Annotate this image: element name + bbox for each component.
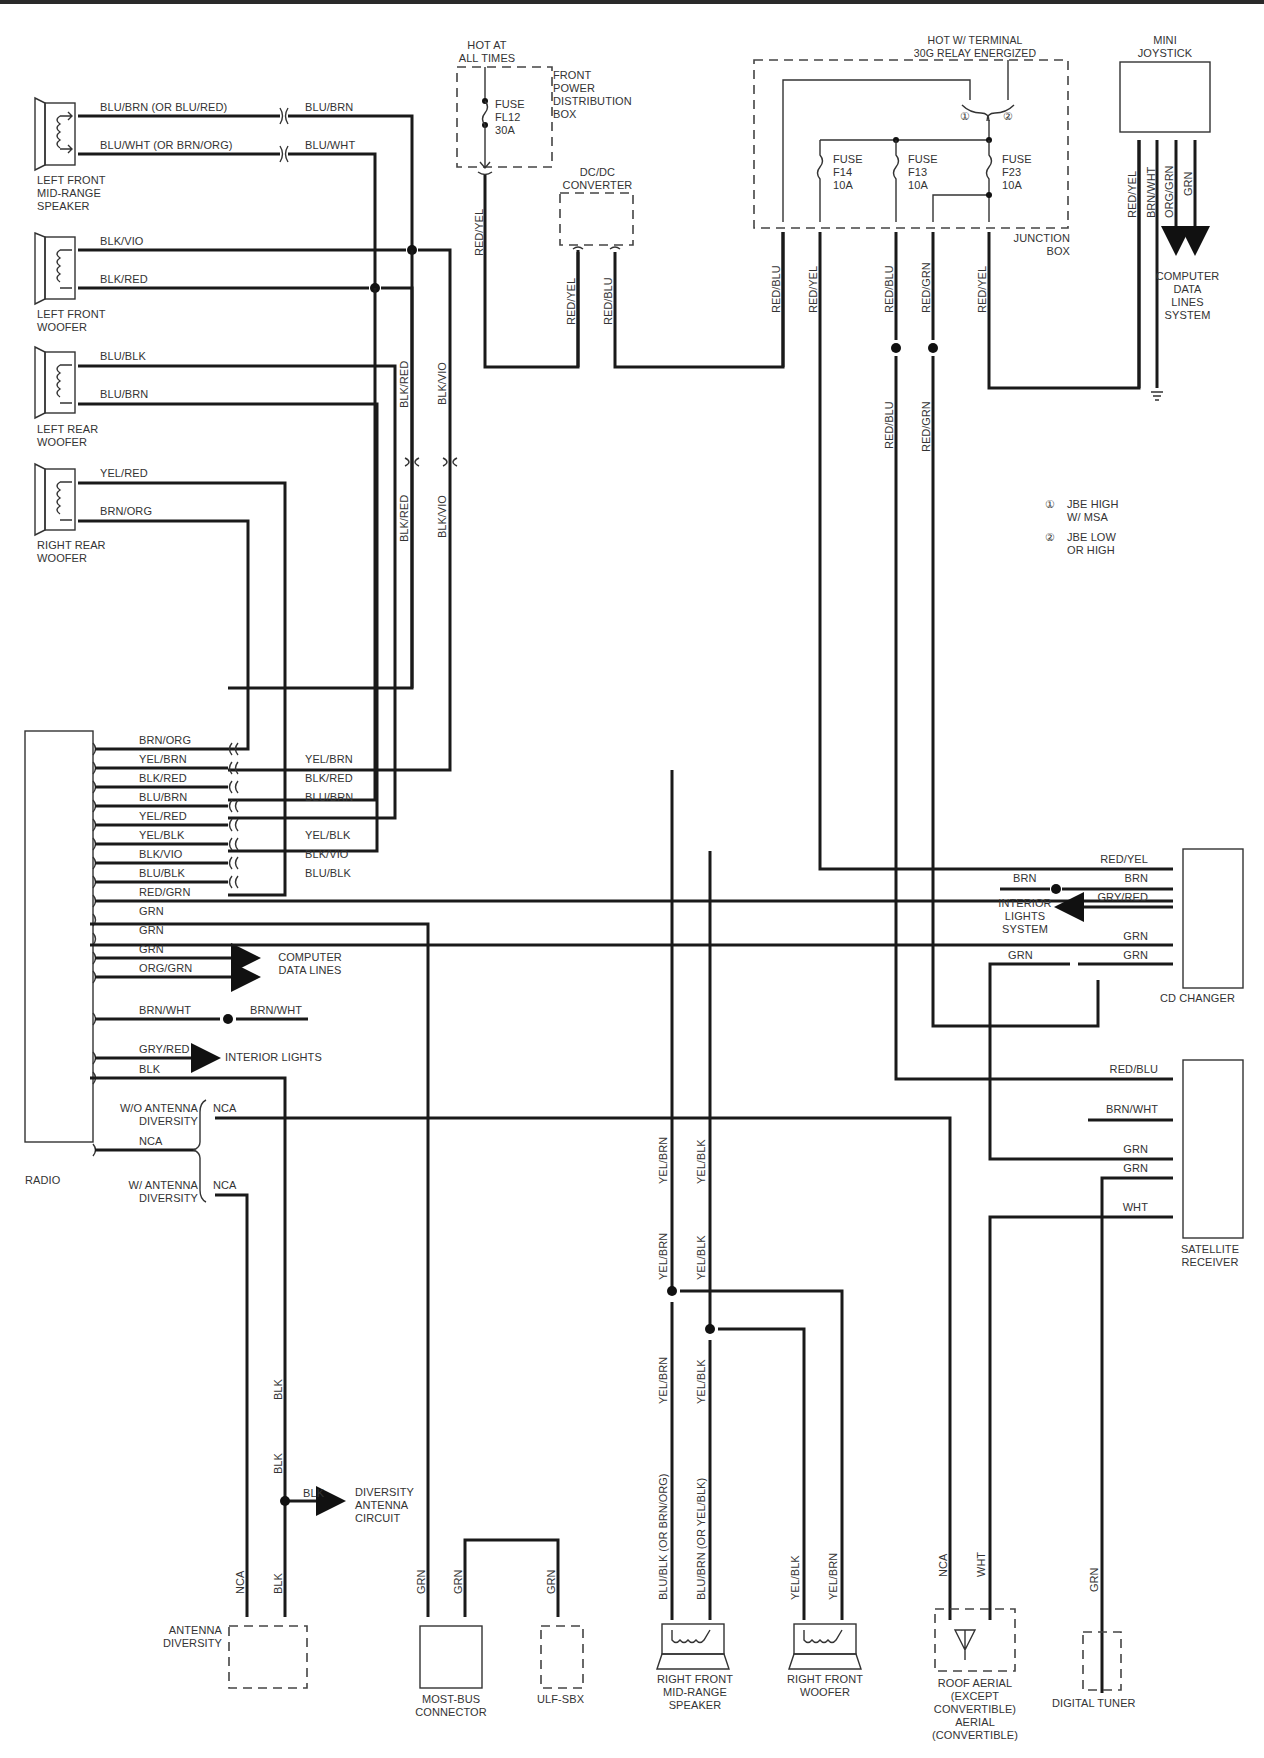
right-front-midrange-speaker-icon <box>657 1624 729 1669</box>
sat-pin-label: RED/BLU <box>1040 1063 1158 1076</box>
wire-label: RED/YEL <box>1126 171 1138 218</box>
ulf-sbx-label: ULF-SBX <box>537 1693 584 1706</box>
radio-box <box>25 731 93 1142</box>
wire-label: BLK/RED <box>100 273 148 286</box>
wire-label: RED/BLU <box>883 401 895 449</box>
legend-1-text: JBE HIGHW/ MSA <box>1067 498 1119 524</box>
radio-pin-label: ORG/GRN <box>139 962 192 975</box>
wire-label: YEL/BRN <box>657 1357 669 1404</box>
circle-2-marker: ② <box>1003 110 1013 123</box>
wire-label: RED/YEL <box>473 209 485 256</box>
wire-label: BRN <box>1013 872 1037 885</box>
mini-joystick-label: MINIJOYSTICK <box>1120 34 1210 60</box>
left-front-woofer-label: LEFT FRONTWOOFER <box>37 308 106 334</box>
roof-aerial-label: ROOF AERIAL(EXCEPTCONVERTIBLE)AERIAL(CON… <box>920 1677 1030 1742</box>
wire-label: BLK <box>272 1453 284 1474</box>
most-bus-connector-box <box>420 1626 482 1688</box>
junction-box <box>754 60 1068 228</box>
wire-label: BLU/WHT (OR BRN/ORG) <box>100 139 233 152</box>
wire-label: BLK <box>272 1379 284 1400</box>
wire-label: RED/YEL <box>565 278 577 325</box>
radio-pin-label: BLK <box>139 1063 160 1076</box>
fuse-f23-label: FUSEF2310A <box>1002 153 1032 192</box>
wire-label: RED/GRN <box>920 401 932 452</box>
radio-pin-label: BLU/BRN <box>305 791 353 804</box>
dc-dc-converter-label: DC/DCCONVERTER <box>555 166 640 192</box>
radio-pin-label: YEL/BRN <box>139 753 187 766</box>
wire-label: BLU/WHT <box>305 139 355 152</box>
diversity-antenna-circuit-label: DIVERSITYANTENNACIRCUIT <box>355 1486 414 1525</box>
radio-label: RADIO <box>25 1174 60 1187</box>
right-rear-woofer-label: RIGHT REARWOOFER <box>37 539 106 565</box>
radio-pin-label: BLK/VIO <box>305 848 349 861</box>
wire-label: YEL/BLK <box>695 1359 707 1404</box>
left-front-midrange-speaker-icon <box>35 98 75 170</box>
fuse-fl12-label: FUSEFL1230A <box>495 98 525 137</box>
wire-label: BLU/BLK (OR BRN/ORG) <box>657 1473 669 1600</box>
wire-label: BLU/BRN (OR BLU/RED) <box>100 101 227 114</box>
radio-pin-label: YEL/BRN <box>305 753 353 766</box>
wire-label: BRN/ORG <box>100 505 152 518</box>
cd-changer-box <box>1183 849 1243 988</box>
wire-label: BLK <box>272 1573 284 1594</box>
wire-label: GRN <box>452 1570 464 1594</box>
sat-pin-label: GRN <box>1040 1162 1148 1175</box>
right-front-midrange-label: RIGHT FRONTMID-RANGESPEAKER <box>645 1673 745 1712</box>
wire-label: RED/BLU <box>602 277 614 325</box>
wire-label: GRN <box>1182 172 1194 196</box>
wire-label: RED/YEL <box>807 266 819 313</box>
wire-label: YEL/RED <box>100 467 148 480</box>
radio-pin-label: BLU/BLK <box>139 867 185 880</box>
computer-data-lines-label: COMPUTERDATA LINES <box>265 951 355 977</box>
radio-pin-label: GRN <box>139 924 164 937</box>
hot-at-all-times-label: HOT ATALL TIMES <box>452 39 522 65</box>
wire-label: ORG/GRN <box>1163 165 1175 218</box>
wire-label: GRN <box>545 1570 557 1594</box>
right-front-woofer-label: RIGHT FRONTWOOFER <box>775 1673 875 1699</box>
sat-pin-label: BRN/WHT <box>1040 1103 1158 1116</box>
legend-2-marker: ② <box>1045 531 1055 544</box>
wire-label: RED/YEL <box>976 266 988 313</box>
radio-pin-label: BLK/RED <box>305 772 353 785</box>
radio-pin-label: BRN/WHT <box>250 1004 302 1017</box>
radio-pin-label: GRN <box>139 905 164 918</box>
wire-label: NCA <box>937 1554 949 1577</box>
cd-pin-label: BRN <box>1040 872 1148 885</box>
ulf-sbx-box <box>541 1626 583 1688</box>
front-power-distribution-box-label: FRONTPOWERDISTRIBUTIONBOX <box>553 69 632 121</box>
fuse-f14-label: FUSEF1410A <box>833 153 863 192</box>
right-rear-woofer-icon <box>35 464 75 535</box>
wire-label: RED/GRN <box>920 262 932 313</box>
computer-data-lines-system-label: COMPUTERDATALINESSYSTEM <box>1150 270 1225 322</box>
digital-tuner-label: DIGITAL TUNER <box>1052 1697 1136 1710</box>
wire-label: WHT <box>975 1552 987 1577</box>
wire-label: NCA <box>213 1102 237 1115</box>
wire-label: BLU/BRN <box>305 101 353 114</box>
legend-1-marker: ① <box>1045 498 1055 511</box>
wire-label: GRN <box>1008 949 1033 962</box>
radio-pin-label: YEL/BLK <box>305 829 350 842</box>
wire-label: YEL/BLK <box>789 1555 801 1600</box>
wire-label: BLK/VIO <box>100 235 144 248</box>
wire-label: YEL/BRN <box>827 1553 839 1600</box>
wo-antenna-diversity-label: W/O ANTENNADIVERSITY <box>90 1102 198 1128</box>
wire-label: BLK/VIO <box>436 362 448 405</box>
sat-pin-label: WHT <box>1040 1201 1148 1214</box>
junction-box-label: JUNCTIONBOX <box>1000 232 1070 258</box>
wire-label: GRN <box>415 1570 427 1594</box>
antenna-diversity-label: ANTENNADIVERSITY <box>150 1624 222 1650</box>
radio-pin-label: GRY/RED <box>139 1043 190 1056</box>
wire-label: YEL/BRN <box>657 1233 669 1280</box>
wire-label: RED/BLU <box>883 265 895 313</box>
legend-2-text: JBE LOWOR HIGH <box>1067 531 1116 557</box>
wire-label: BLU/BLK <box>100 350 146 363</box>
radio-pin-label: RED/GRN <box>139 886 190 899</box>
satellite-receiver-label: SATELLITERECEIVER <box>1170 1243 1250 1269</box>
sat-pin-label: GRN <box>1040 1143 1148 1156</box>
roof-aerial-box <box>935 1609 1015 1671</box>
satellite-receiver-box <box>1183 1060 1243 1238</box>
wire-label: YEL/BRN <box>657 1137 669 1184</box>
left-front-midrange-label: LEFT FRONTMID-RANGESPEAKER <box>37 174 106 213</box>
radio-pin-label: YEL/RED <box>139 810 187 823</box>
right-front-woofer-icon <box>789 1624 861 1669</box>
